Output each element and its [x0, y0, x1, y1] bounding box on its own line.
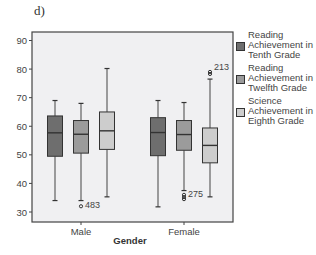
legend: Reading Achievement in Tenth GradeReadin… [236, 30, 316, 129]
legend-item: Science Achievement in Eighth Grade [236, 96, 316, 126]
y-tick-label: 70 [16, 92, 27, 103]
outlier-label: 483 [85, 200, 100, 210]
y-tick-label: 30 [16, 207, 27, 218]
legend-label: Science Achievement in Eighth Grade [248, 95, 313, 126]
legend-item: Reading Achievement in Tenth Grade [236, 30, 316, 60]
x-tick-label: Male [71, 226, 92, 237]
legend-swatch [236, 108, 245, 117]
box [74, 121, 89, 154]
y-tick-label: 60 [16, 121, 27, 132]
outlier-label: 275 [188, 189, 203, 199]
box [151, 118, 166, 156]
x-axis-label: Gender [113, 235, 147, 246]
y-tick-label: 90 [16, 35, 27, 46]
legend-label: Reading Achievement in Tenth Grade [248, 29, 313, 60]
y-tick-label: 80 [16, 64, 27, 75]
outlier-label: 213 [214, 62, 229, 72]
box [177, 121, 192, 151]
y-tick-label: 50 [16, 149, 27, 160]
legend-swatch [236, 42, 245, 51]
x-tick-label: Female [168, 226, 200, 237]
legend-label: Reading Achievement in Twelfth Grade [248, 62, 313, 93]
y-tick-label: 40 [16, 178, 27, 189]
legend-swatch [236, 75, 245, 84]
box [48, 116, 63, 156]
legend-item: Reading Achievement in Twelfth Grade [236, 63, 316, 93]
